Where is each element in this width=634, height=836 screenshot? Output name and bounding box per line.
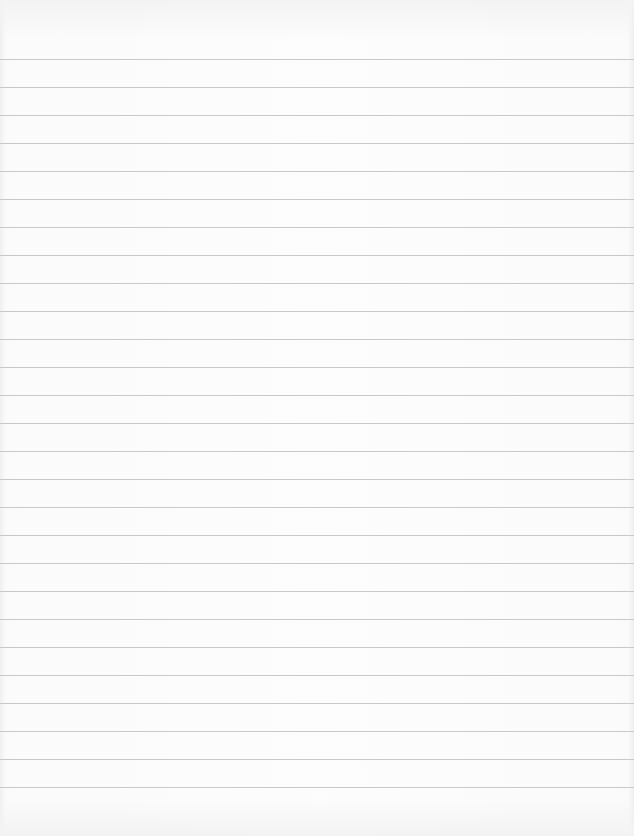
ruled-line xyxy=(0,675,634,676)
ruled-line xyxy=(0,255,634,256)
ruled-line xyxy=(0,115,634,116)
ruled-line xyxy=(0,703,634,704)
ruled-line xyxy=(0,143,634,144)
ruled-line xyxy=(0,619,634,620)
ruled-line xyxy=(0,171,634,172)
ruled-line xyxy=(0,451,634,452)
ruled-line xyxy=(0,647,634,648)
ruled-line xyxy=(0,535,634,536)
ruled-line xyxy=(0,507,634,508)
ruled-line xyxy=(0,479,634,480)
ruled-line xyxy=(0,591,634,592)
ruled-line xyxy=(0,563,634,564)
ruled-line xyxy=(0,199,634,200)
lined-paper-sheet xyxy=(0,0,634,836)
ruled-line xyxy=(0,227,634,228)
ruled-line xyxy=(0,339,634,340)
ruled-line xyxy=(0,59,634,60)
ruled-line xyxy=(0,759,634,760)
ruled-line xyxy=(0,395,634,396)
ruled-line xyxy=(0,787,634,788)
ruled-line xyxy=(0,311,634,312)
ruled-line xyxy=(0,367,634,368)
ruled-line xyxy=(0,731,634,732)
ruled-line xyxy=(0,283,634,284)
ruled-line xyxy=(0,87,634,88)
ruled-line xyxy=(0,423,634,424)
